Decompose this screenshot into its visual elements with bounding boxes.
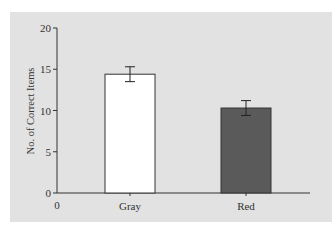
y-tick-label: 15 xyxy=(40,63,52,75)
bar-red xyxy=(221,108,271,193)
y-axis-label: No. of Correct Items xyxy=(25,68,36,155)
x-origin-label: 0 xyxy=(54,199,60,211)
x-category-label: Gray xyxy=(119,200,141,212)
y-tick-label: 10 xyxy=(40,105,52,117)
x-axis: 0GrayRed xyxy=(54,193,310,212)
bars xyxy=(105,67,271,193)
x-category-label: Red xyxy=(237,200,255,212)
y-tick-label: 0 xyxy=(46,187,52,199)
bar-gray xyxy=(105,74,155,193)
y-tick-label: 5 xyxy=(46,146,52,158)
y-tick-label: 20 xyxy=(40,22,52,34)
bar-chart: 05101520 0GrayRed No. of Correct Items xyxy=(0,0,335,231)
y-axis: 05101520 xyxy=(40,22,57,199)
